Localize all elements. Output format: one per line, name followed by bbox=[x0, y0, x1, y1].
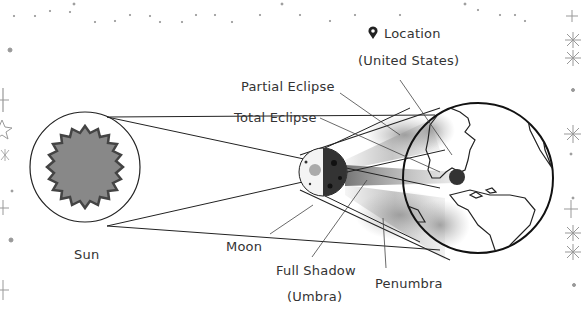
solar-eclipse-diagram: Location (United States) Partial Eclipse… bbox=[0, 0, 581, 320]
total-eclipse-label: Total Eclipse bbox=[234, 111, 317, 124]
penumbra-label: Penumbra bbox=[375, 277, 443, 290]
full-shadow-label: Full Shadow bbox=[276, 264, 356, 277]
sun-label: Sun bbox=[74, 248, 99, 261]
partial-eclipse-label: Partial Eclipse bbox=[241, 80, 335, 93]
moon-graphic bbox=[299, 148, 347, 196]
moon-label: Moon bbox=[226, 240, 262, 253]
location-label: Location bbox=[367, 26, 441, 40]
umbra-label: (Umbra) bbox=[287, 290, 342, 303]
location-country-label: (United States) bbox=[358, 54, 459, 67]
umbra-shadow bbox=[345, 165, 455, 186]
map-pin-icon bbox=[367, 26, 379, 40]
sun-graphic bbox=[30, 112, 140, 222]
